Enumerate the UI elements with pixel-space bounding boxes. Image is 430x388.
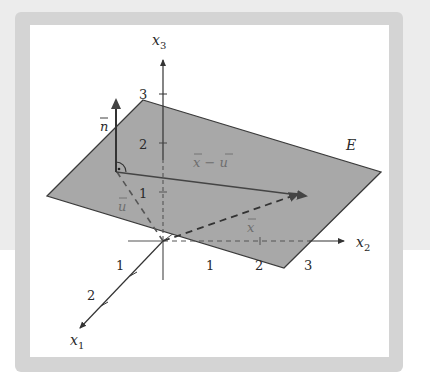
n-vector-label: n [100, 119, 108, 134]
x3-tick-1: 1 [139, 186, 147, 201]
x1-tick-1: 1 [116, 258, 124, 273]
x1-axis [80, 241, 163, 328]
x1-axis-label: x1 [70, 332, 84, 351]
x3-tick-3: 3 [139, 87, 147, 102]
x2-tick-2: 2 [255, 258, 263, 273]
u-vector-label: u [118, 199, 126, 214]
x-vector-label: x [247, 220, 255, 235]
x2-tick-3: 3 [304, 258, 312, 273]
x3-tick-2: 2 [139, 137, 147, 152]
x2-axis-label: x2 [356, 234, 370, 253]
x2-tick-1: 1 [206, 258, 214, 273]
x-minus-u-vector-label: x − u [193, 155, 228, 170]
plane-vector-diagram: x3 x2 x1 E 3 2 1 1 2 3 1 2 n u x x − u [0, 0, 430, 388]
x1-tick-2: 2 [87, 288, 95, 303]
plane-label: E [345, 137, 356, 153]
x3-axis-label: x3 [152, 32, 166, 51]
